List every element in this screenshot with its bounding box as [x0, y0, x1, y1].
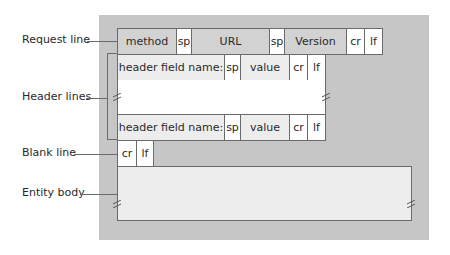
break-mark-icon	[112, 200, 122, 208]
leader-entity-body	[80, 194, 117, 195]
blank-line-lf: lf	[136, 140, 154, 167]
header-lf: lf	[307, 114, 326, 141]
label-blank-line: Blank line	[22, 146, 76, 159]
break-mark-icon	[112, 93, 122, 101]
header-cr: cr	[289, 54, 308, 81]
leader-blank-line	[74, 154, 117, 155]
header-cr: cr	[289, 114, 308, 141]
header-lines-ellipsis-area	[117, 80, 326, 115]
break-mark-icon	[321, 93, 331, 101]
request-sp-2: sp	[269, 28, 285, 55]
label-entity-body: Entity body	[22, 186, 85, 199]
entity-body-box	[117, 166, 412, 221]
header-sp: sp	[224, 54, 241, 81]
header-sp: sp	[224, 114, 241, 141]
request-version: Version	[284, 28, 347, 55]
request-method: method	[117, 28, 177, 55]
header-field-name: header field name:	[117, 114, 225, 141]
blank-line-cr: cr	[117, 140, 137, 167]
request-url: URL	[191, 28, 270, 55]
header-field-name: header field name:	[117, 54, 225, 81]
request-lf: lf	[364, 28, 383, 55]
request-sp-1: sp	[176, 28, 192, 55]
leader-request-line	[87, 41, 117, 42]
header-value: value	[240, 54, 290, 81]
label-request-line: Request line	[22, 33, 90, 46]
leader-header-lines	[86, 98, 107, 99]
header-value: value	[240, 114, 290, 141]
request-cr: cr	[346, 28, 365, 55]
header-lf: lf	[307, 54, 326, 81]
label-header-lines: Header lines	[22, 90, 91, 103]
break-mark-icon	[406, 200, 416, 208]
